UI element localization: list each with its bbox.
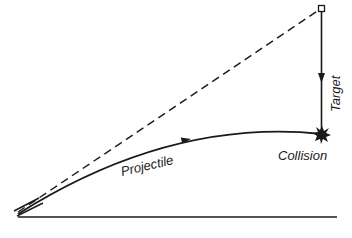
- target-start-box: [319, 6, 325, 12]
- line-of-sight-dashed: [18, 10, 319, 212]
- target-arrow-icon: [318, 73, 325, 83]
- projectile-trajectory: [18, 132, 322, 214]
- projectile-target-diagram: Projectile Collision Target: [0, 0, 352, 238]
- collision-label: Collision: [278, 148, 327, 163]
- projectile-label: Projectile: [119, 152, 174, 179]
- collision-star-icon: [313, 126, 331, 144]
- target-label: Target: [328, 74, 343, 112]
